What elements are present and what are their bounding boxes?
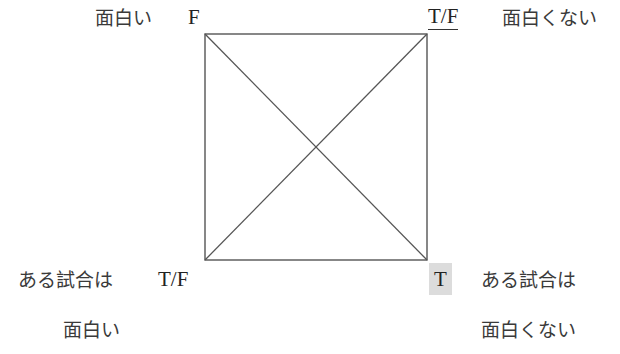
bottom-left-truth-value: T/F — [158, 267, 188, 291]
square-of-opposition-diagram — [0, 0, 620, 354]
bottom-right-truth-value: T — [429, 263, 452, 295]
top-left-proposition: 面白い — [95, 6, 152, 30]
bottom-left-proposition-line1: ある試合は — [18, 268, 113, 292]
bottom-right-proposition-line1: ある試合は — [481, 268, 576, 292]
bottom-right-proposition-line2: 面白くない — [481, 318, 576, 342]
top-right-proposition: 面白くない — [502, 6, 597, 30]
bottom-left-proposition-line2: 面白い — [63, 318, 120, 342]
top-left-truth-value: F — [188, 5, 200, 29]
top-right-truth-value: T/F — [428, 4, 458, 30]
